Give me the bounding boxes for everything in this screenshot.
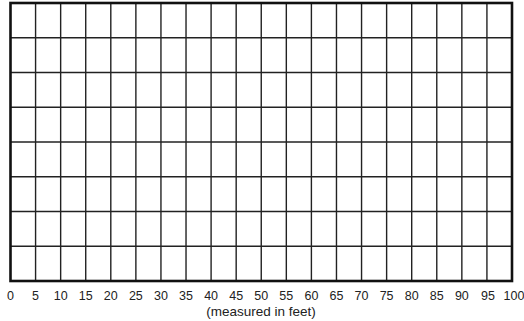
x-tick-label: 60 bbox=[304, 289, 318, 303]
x-tick-label: 35 bbox=[179, 289, 193, 303]
x-tick-label: 65 bbox=[330, 289, 344, 303]
x-tick-label: 45 bbox=[229, 289, 243, 303]
x-tick-label: 40 bbox=[204, 289, 218, 303]
x-tick-label: 95 bbox=[481, 289, 495, 303]
x-tick-label: 10 bbox=[54, 289, 68, 303]
x-tick-label: 85 bbox=[430, 289, 444, 303]
x-tick-label: 70 bbox=[355, 289, 369, 303]
x-tick-label: 0 bbox=[7, 289, 14, 303]
x-tick-label: 30 bbox=[154, 289, 168, 303]
x-tick-label: 25 bbox=[129, 289, 143, 303]
x-tick-label: 80 bbox=[405, 289, 419, 303]
x-tick-label: 15 bbox=[79, 289, 93, 303]
x-tick-label: 5 bbox=[32, 289, 39, 303]
x-tick-label: 55 bbox=[279, 289, 293, 303]
x-tick-label: 100 bbox=[504, 289, 524, 303]
x-tick-label: 20 bbox=[104, 289, 118, 303]
x-axis-label: (measured in feet) bbox=[206, 304, 316, 320]
x-tick-label: 50 bbox=[254, 289, 268, 303]
x-tick-label: 90 bbox=[455, 289, 469, 303]
x-tick-label: 75 bbox=[380, 289, 394, 303]
